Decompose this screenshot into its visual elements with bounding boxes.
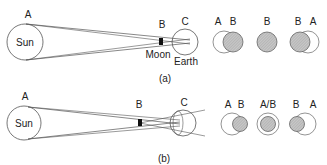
sun-b-label: Sun bbox=[15, 118, 33, 129]
view-a-1: A B bbox=[213, 16, 243, 53]
view-b-1: A B bbox=[221, 99, 248, 135]
view-a-1-left: A bbox=[215, 16, 222, 27]
view-b-1-right: B bbox=[238, 99, 245, 110]
view-a-1-right: B bbox=[230, 16, 237, 27]
label-b-a: B bbox=[159, 19, 166, 30]
label-a-top: A bbox=[25, 9, 32, 20]
label-c-b: C bbox=[180, 97, 187, 108]
caption-b: (b) bbox=[158, 153, 170, 164]
panel-b: Sun A B C (b) A B A/B B A bbox=[7, 91, 317, 164]
eclipse-diagram: Sun A B Moon C Earth (a) A B B B A bbox=[0, 0, 327, 165]
view-b-2: A/B bbox=[257, 99, 279, 135]
panel-a: Sun A B Moon C Earth (a) A B B B A bbox=[7, 9, 319, 84]
view-b-3-right: A bbox=[310, 99, 317, 110]
view-b-2-center: A/B bbox=[260, 99, 276, 110]
moon-a bbox=[159, 38, 163, 45]
view-b-3-left: B bbox=[293, 99, 300, 110]
moon-b bbox=[138, 119, 142, 126]
view-a-2-center: B bbox=[264, 16, 271, 27]
view-b-1-left: A bbox=[225, 99, 232, 110]
view-a-3: B A bbox=[290, 16, 319, 53]
moon-label: Moon bbox=[145, 49, 170, 60]
label-c-a: C bbox=[181, 16, 188, 27]
label-b-b: B bbox=[136, 99, 143, 110]
label-a-bottom: A bbox=[22, 91, 29, 102]
view-a-2: B bbox=[257, 16, 277, 52]
sun-a-label: Sun bbox=[16, 37, 34, 48]
view-b-3: B A bbox=[290, 99, 317, 135]
view-a-3-left: B bbox=[295, 16, 302, 27]
earth-label: Earth bbox=[174, 56, 198, 67]
view-a-3-right: A bbox=[310, 16, 317, 27]
caption-a: (a) bbox=[159, 73, 171, 84]
